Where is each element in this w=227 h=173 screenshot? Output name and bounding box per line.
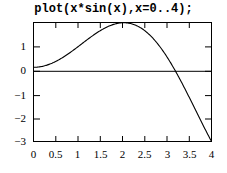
y-tick-label-1: 1 — [8, 41, 26, 52]
y-tick-label-neg3: −3 — [4, 136, 26, 147]
right-axis-ticks — [205, 47, 212, 119]
x-tick-label-2: 2 — [112, 149, 133, 160]
plot-frame — [34, 23, 212, 142]
x-tick-label-3: 3 — [157, 149, 178, 160]
data-series-line — [34, 23, 212, 142]
x-tick-label-1: 1 — [67, 149, 88, 160]
x-tick-label-0: 0 — [23, 149, 44, 160]
y-tick-label-0: 0 — [8, 65, 26, 76]
y-axis-ticks — [34, 47, 41, 119]
y-tick-label-neg1: −1 — [4, 90, 26, 101]
x-tick-label-4: 4 — [201, 149, 222, 160]
x-tick-label-3p5: 3.5 — [179, 149, 200, 160]
x-tick-label-2p5: 2.5 — [134, 149, 155, 160]
x-tick-label-0p5: 0.5 — [45, 149, 66, 160]
y-tick-label-neg2: −2 — [4, 113, 26, 124]
x-axis-ticks — [34, 135, 212, 142]
x-tick-label-1p5: 1.5 — [90, 149, 111, 160]
plot-figure: plot(x*sin(x),x=0..4); — [0, 0, 227, 173]
